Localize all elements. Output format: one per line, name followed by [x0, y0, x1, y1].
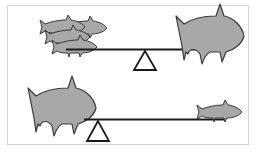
fulcrum-bottom-icon [87, 121, 109, 141]
small-fish-stack [40, 15, 107, 57]
seesaw-diagram [0, 0, 257, 152]
seesaw-top [40, 4, 244, 70]
large-fish-icon [176, 4, 244, 64]
fulcrum-top-icon [134, 51, 156, 70]
seesaw-bottom [28, 76, 242, 141]
large-fish-icon [28, 76, 96, 136]
